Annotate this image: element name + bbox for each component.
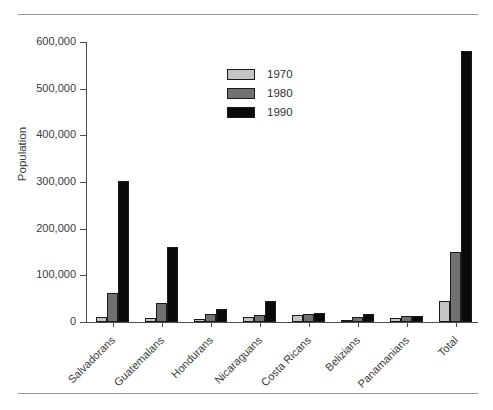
bar-1990: [167, 247, 178, 322]
x-tick-mark: [358, 323, 359, 327]
bar-1990: [118, 181, 129, 322]
bar-1980: [254, 315, 265, 322]
y-tick-label-wrap: 400,000: [0, 129, 76, 140]
bar-group: [439, 42, 472, 322]
y-tick-label: 0: [2, 316, 76, 327]
y-tick-label: 300,000: [2, 176, 76, 187]
bar-1970: [292, 315, 303, 322]
y-tick-label: 200,000: [2, 223, 76, 234]
y-tick-label-wrap: 300,000: [0, 176, 76, 187]
legend-row: 1980: [227, 87, 317, 102]
bar-1990: [314, 313, 325, 322]
x-tick-mark: [309, 323, 310, 327]
legend-row: 1990: [227, 106, 317, 121]
legend-swatch-1990: [227, 107, 255, 118]
y-tick-label: 500,000: [2, 83, 76, 94]
bar-1980: [205, 314, 216, 322]
y-tick-label-wrap: 100,000: [0, 269, 76, 280]
bar-1970: [390, 318, 401, 322]
bar-1970: [194, 319, 205, 322]
bar-1970: [145, 318, 156, 322]
legend-label-1970: 1970: [267, 68, 293, 81]
legend-swatch-1970: [227, 69, 255, 80]
top-divider-rule: [18, 14, 478, 15]
bar-1980: [450, 252, 461, 322]
bar-group: [390, 42, 423, 322]
chart-legend: 197019801990: [227, 68, 317, 125]
x-tick-mark: [211, 323, 212, 327]
x-tick-mark: [407, 323, 408, 327]
legend-swatch-1980: [227, 88, 255, 99]
y-tick-label: 100,000: [2, 269, 76, 280]
x-tick-mark: [456, 323, 457, 327]
bar-1990: [265, 301, 276, 322]
y-tick-label: 600,000: [2, 36, 76, 47]
bar-1980: [156, 303, 167, 322]
x-tick-mark: [113, 323, 114, 327]
bar-1970: [341, 320, 352, 322]
bar-group: [96, 42, 129, 322]
y-tick-label-wrap: 0: [0, 316, 76, 327]
legend-label-1990: 1990: [267, 106, 293, 119]
x-tick-mark: [162, 323, 163, 327]
y-tick-label-wrap: 500,000: [0, 83, 76, 94]
bar-1980: [352, 317, 363, 322]
y-tick-label: 400,000: [2, 129, 76, 140]
bar-1990: [216, 309, 227, 322]
legend-label-1980: 1980: [267, 87, 293, 100]
bar-1980: [107, 293, 118, 322]
bar-1990: [363, 314, 374, 322]
bar-1990: [461, 51, 472, 322]
y-tick-label-wrap: 200,000: [0, 223, 76, 234]
bar-1980: [401, 316, 412, 322]
bar-1970: [96, 317, 107, 322]
bar-1970: [439, 301, 450, 322]
x-tick-mark: [260, 323, 261, 327]
bar-group: [145, 42, 178, 322]
x-axis-line: [86, 322, 478, 323]
y-tick-label-wrap: 600,000: [0, 36, 76, 47]
bar-1970: [243, 317, 254, 322]
bar-group: [194, 42, 227, 322]
legend-row: 1970: [227, 68, 317, 83]
bar-1980: [303, 314, 314, 322]
chart-figure: Population 0100,000200,000300,000400,000…: [0, 0, 493, 410]
bar-1990: [412, 316, 423, 322]
y-tick-mark: [80, 322, 86, 323]
y-axis-title: Population: [16, 94, 28, 214]
bar-group: [341, 42, 374, 322]
